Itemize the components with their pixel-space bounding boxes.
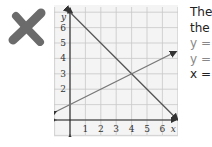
- note-line-1: The: [190, 5, 212, 21]
- svg-text:6: 6: [160, 124, 166, 134]
- svg-text:y: y: [60, 12, 67, 22]
- svg-text:6: 6: [60, 23, 66, 33]
- x-mark-icon: [8, 8, 46, 46]
- svg-text:3: 3: [60, 69, 66, 79]
- note-solution-x: x =: [190, 67, 212, 83]
- svg-text:4: 4: [60, 53, 66, 63]
- svg-text:3: 3: [113, 124, 119, 134]
- note-line-2: the: [190, 21, 212, 37]
- svg-text:2: 2: [98, 124, 104, 134]
- svg-text:4: 4: [129, 124, 135, 134]
- svg-text:5: 5: [60, 38, 66, 48]
- svg-text:5: 5: [144, 124, 150, 134]
- answer-note: The the y = y = x =: [190, 5, 212, 83]
- svg-text:x: x: [171, 124, 176, 134]
- note-equation-2: y =: [190, 52, 212, 68]
- svg-text:1: 1: [83, 124, 89, 134]
- coordinate-graph: 123456x23456y: [54, 5, 178, 137]
- note-equation-1: y =: [190, 36, 212, 52]
- svg-text:2: 2: [60, 84, 66, 94]
